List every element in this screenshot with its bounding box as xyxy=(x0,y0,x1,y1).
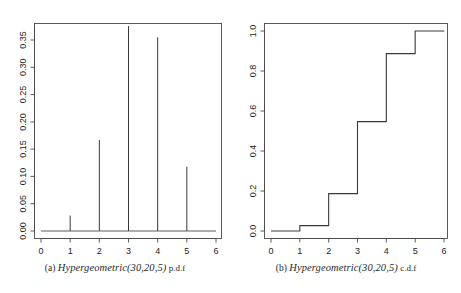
cdf-xtick-4: 4 xyxy=(384,246,389,256)
pdf-xtick-4: 4 xyxy=(155,246,160,256)
pdf-xtick-1: 1 xyxy=(68,246,73,256)
cdf-x-axis xyxy=(271,239,444,243)
cdf-ytick-5: 1.0 xyxy=(248,25,258,38)
cdf-ytick-4: 0.8 xyxy=(248,65,258,78)
pdf-caption: (a) Hypergeometric(30,20,5) p.d.f xyxy=(0,262,230,274)
cdf-ytick-2: 0.4 xyxy=(248,145,258,158)
cdf-caption-label: (b) xyxy=(276,263,287,273)
pdf-caption-kind: p.d.f xyxy=(169,263,186,273)
pdf-ytick-4: 0.20 xyxy=(18,113,28,131)
pdf-spike-series xyxy=(70,26,187,231)
pdf-y-axis xyxy=(31,26,35,231)
cdf-ytick-3: 0.6 xyxy=(248,105,258,118)
cdf-xtick-5: 5 xyxy=(413,246,418,256)
cdf-xtick-2: 2 xyxy=(326,246,331,256)
pdf-xtick-3: 3 xyxy=(126,246,131,256)
pdf-xtick-2: 2 xyxy=(97,246,102,256)
pdf-xtick-0: 0 xyxy=(38,246,43,256)
pdf-plot: 0.00 0.05 0.10 0.15 0.20 0.25 0.30 0.35 xyxy=(0,0,230,262)
cdf-caption: (b) Hypergeometric(30,20,5) c.d.f xyxy=(231,262,461,274)
cdf-caption-distribution: Hypergeometric(30,20,5) xyxy=(289,262,398,273)
cdf-xtick-3: 3 xyxy=(355,246,360,256)
cdf-ytick-0: 0.0 xyxy=(248,225,258,238)
pdf-y-ticklabels: 0.00 0.05 0.10 0.15 0.20 0.25 0.30 0.35 xyxy=(18,31,28,240)
cdf-plot-frame xyxy=(265,24,448,239)
cdf-ytick-1: 0.2 xyxy=(248,185,258,198)
pdf-x-axis xyxy=(41,239,216,243)
pdf-ytick-7: 0.35 xyxy=(18,31,28,49)
cdf-plot: 0.0 0.2 0.4 0.6 0.8 1.0 0 1 xyxy=(231,0,461,262)
cdf-caption-kind: c.d.f xyxy=(400,263,416,273)
pdf-ytick-5: 0.25 xyxy=(18,86,28,104)
pdf-ytick-0: 0.00 xyxy=(18,222,28,240)
figure-container: 0.00 0.05 0.10 0.15 0.20 0.25 0.30 0.35 xyxy=(0,0,461,293)
pdf-xtick-5: 5 xyxy=(184,246,189,256)
pdf-ytick-6: 0.30 xyxy=(18,59,28,77)
pdf-ytick-3: 0.15 xyxy=(18,140,28,158)
cdf-y-axis xyxy=(261,31,265,231)
cdf-xtick-0: 0 xyxy=(268,246,273,256)
pdf-ytick-1: 0.05 xyxy=(18,195,28,213)
cdf-xtick-6: 6 xyxy=(441,246,446,256)
cdf-step-curve xyxy=(271,31,444,231)
pdf-ytick-2: 0.10 xyxy=(18,168,28,186)
pdf-x-ticklabels: 0 1 2 3 4 5 6 xyxy=(38,246,218,256)
panel-cdf: 0.0 0.2 0.4 0.6 0.8 1.0 0 1 xyxy=(231,0,461,293)
pdf-xtick-6: 6 xyxy=(213,246,218,256)
cdf-x-ticklabels: 0 1 2 3 4 5 6 xyxy=(268,246,446,256)
cdf-y-ticklabels: 0.0 0.2 0.4 0.6 0.8 1.0 xyxy=(248,25,258,238)
panel-pdf: 0.00 0.05 0.10 0.15 0.20 0.25 0.30 0.35 xyxy=(0,0,230,293)
cdf-xtick-1: 1 xyxy=(297,246,302,256)
pdf-caption-distribution: Hypergeometric(30,20,5) xyxy=(58,262,167,273)
pdf-caption-label: (a) xyxy=(45,263,56,273)
